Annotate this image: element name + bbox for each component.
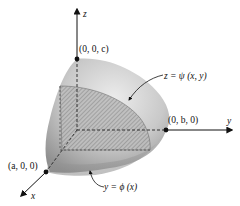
- x-axis-label: x: [30, 191, 36, 201]
- boundary-equation-label: y = ϕ (x): [103, 182, 137, 193]
- point-x-intercept: [44, 170, 49, 175]
- diagram: z y x (0, 0, c) (0, b, 0) (a, 0, 0) z = …: [0, 0, 240, 206]
- z-axis-label: z: [82, 9, 87, 19]
- x-intercept-label: (a, 0, 0): [8, 161, 38, 172]
- surface-equation-label: z = ψ (x, y): [163, 71, 207, 82]
- y-intercept-label: (0, b, 0): [168, 115, 198, 126]
- point-z-intercept: [75, 57, 80, 62]
- point-y-intercept: [164, 128, 169, 133]
- z-intercept-label: (0, 0, c): [79, 44, 109, 55]
- y-axis-label: y: [226, 116, 232, 126]
